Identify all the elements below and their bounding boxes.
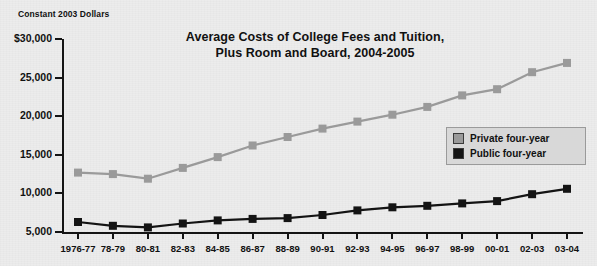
y-tick-label: $30,000 — [0, 32, 52, 44]
legend-label-public: Public four-year — [470, 148, 546, 159]
x-tick-label: 82-83 — [171, 243, 195, 254]
data-point-marker — [353, 118, 361, 126]
data-point-marker — [249, 215, 257, 223]
x-tick-label: 92-93 — [345, 243, 369, 254]
data-point-marker — [249, 142, 257, 150]
data-point-marker — [388, 203, 396, 211]
y-tick-label: 25,000 — [0, 71, 52, 83]
y-tick-label: 5,000 — [0, 225, 52, 237]
legend-swatch-public — [453, 148, 464, 159]
data-point-marker — [144, 223, 152, 231]
y-tick — [55, 38, 62, 40]
data-point-marker — [388, 111, 396, 119]
data-point-marker — [528, 190, 536, 198]
y-tick — [55, 192, 62, 194]
y-tick — [55, 154, 62, 156]
x-tick-label: 84-85 — [206, 243, 230, 254]
x-tick-label: 1976-77 — [61, 243, 96, 254]
x-tick-label: 98-99 — [450, 243, 474, 254]
y-tick — [55, 231, 62, 233]
y-tick — [55, 77, 62, 79]
data-point-marker — [423, 103, 431, 111]
data-point-marker — [284, 133, 292, 141]
data-point-marker — [109, 222, 117, 230]
data-point-marker — [144, 175, 152, 183]
data-point-marker — [214, 216, 222, 224]
x-tick-label: 90-91 — [310, 243, 334, 254]
y-tick-label: 20,000 — [0, 109, 52, 121]
data-point-marker — [284, 214, 292, 222]
data-point-marker — [563, 185, 571, 193]
legend-item-public: Public four-year — [453, 146, 580, 161]
data-point-marker — [214, 153, 222, 161]
x-tick-label: 03-04 — [555, 243, 579, 254]
y-tick — [55, 115, 62, 117]
y-tick-label: 10,000 — [0, 186, 52, 198]
chart-page: Constant 2003 Dollars Average Costs of C… — [0, 0, 597, 266]
series-line-public-four-year — [78, 189, 567, 228]
x-tick-label: 02-03 — [520, 243, 544, 254]
data-point-marker — [493, 85, 501, 93]
data-point-marker — [493, 197, 501, 205]
x-tick-label: 88-89 — [275, 243, 299, 254]
data-point-marker — [563, 59, 571, 67]
legend-label-private: Private four-year — [470, 133, 549, 144]
legend-item-private: Private four-year — [453, 131, 580, 146]
data-point-marker — [74, 218, 82, 226]
data-point-marker — [179, 220, 187, 228]
data-point-marker — [109, 170, 117, 178]
x-tick-label: 96-97 — [415, 243, 439, 254]
x-tick-label: 80-81 — [136, 243, 160, 254]
data-point-marker — [458, 91, 466, 99]
chart-legend: Private four-year Public four-year — [446, 127, 586, 165]
x-tick-label: 00-01 — [485, 243, 509, 254]
data-point-marker — [528, 68, 536, 76]
data-point-marker — [319, 125, 327, 133]
x-tick-label: 86-87 — [240, 243, 264, 254]
data-point-marker — [74, 169, 82, 177]
x-tick-label: 78-79 — [101, 243, 125, 254]
data-point-marker — [353, 206, 361, 214]
y-tick-label: 15,000 — [0, 148, 52, 160]
data-point-marker — [458, 199, 466, 207]
data-point-marker — [423, 202, 431, 210]
y-axis-caption: Constant 2003 Dollars — [18, 9, 109, 19]
data-point-marker — [179, 164, 187, 172]
x-tick-label: 94-95 — [380, 243, 404, 254]
data-point-marker — [319, 211, 327, 219]
legend-swatch-private — [453, 133, 464, 144]
